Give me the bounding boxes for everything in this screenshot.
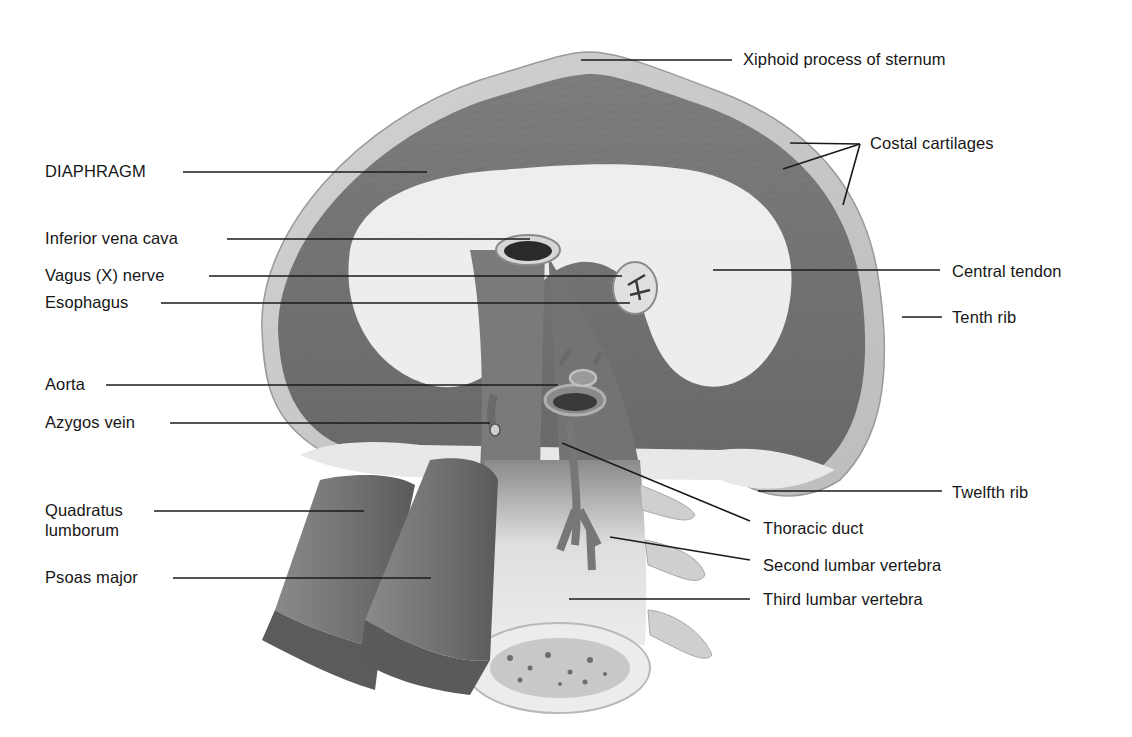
label-quadratus-lumborum-line1: Quadratus (45, 501, 123, 520)
label-costal-cartilages: Costal cartilages (870, 134, 994, 153)
label-xiphoid-process: Xiphoid process of sternum (743, 50, 946, 69)
label-vagus-nerve: Vagus (X) nerve (45, 266, 165, 285)
label-second-lumbar-vertebra: Second lumbar vertebra (763, 556, 941, 575)
label-esophagus: Esophagus (45, 293, 128, 312)
label-third-lumbar-vertebra: Third lumbar vertebra (763, 590, 923, 609)
diaphragm-illustration (0, 0, 1132, 737)
label-twelfth-rib: Twelfth rib (952, 483, 1028, 502)
label-psoas-major: Psoas major (45, 568, 138, 587)
label-aorta: Aorta (45, 375, 85, 394)
label-thoracic-duct: Thoracic duct (763, 519, 863, 538)
esophagus-opening (613, 262, 657, 314)
label-quadratus-lumborum-line2: lumborum (45, 521, 119, 540)
label-central-tendon: Central tendon (952, 262, 1062, 281)
label-tenth-rib: Tenth rib (952, 308, 1016, 327)
transverse-processes (640, 485, 712, 658)
label-azygos-vein: Azygos vein (45, 413, 135, 432)
label-diaphragm: DIAPHRAGM (45, 162, 146, 181)
label-inferior-vena-cava: Inferior vena cava (45, 229, 178, 248)
